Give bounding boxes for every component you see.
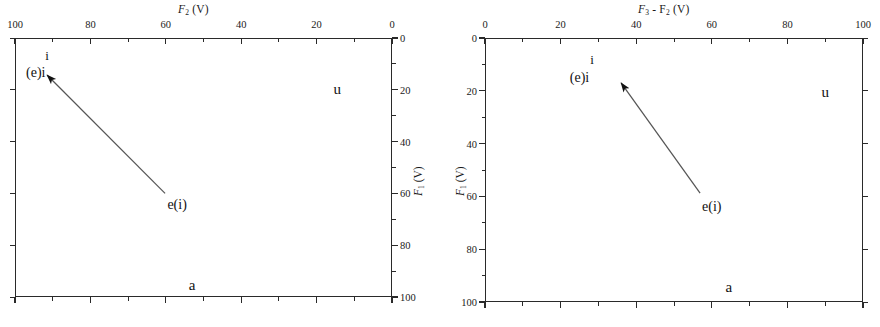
y-opposite-tick: [10, 193, 15, 194]
y-tick-major: [392, 37, 398, 38]
x-tick-minor: [203, 38, 204, 42]
bottom-tick-major: [862, 302, 863, 308]
plot-frame-right: [485, 38, 863, 302]
bottom-tick-major: [165, 297, 166, 303]
y-tick-label: 40: [400, 136, 411, 147]
y-opposite-tick: [10, 297, 15, 298]
x-tick-label: 80: [782, 19, 793, 30]
y-tick-label: 100: [400, 292, 416, 303]
y-opposite-tick: [10, 245, 15, 246]
x-tick-major: [484, 38, 485, 44]
y-tick-label: 0: [400, 33, 405, 44]
x-tick-minor: [522, 38, 523, 42]
bottom-tick-major: [787, 302, 788, 308]
x-tick-minor: [128, 38, 129, 42]
y-tick-major: [479, 90, 485, 91]
y-opposite-tick: [863, 38, 868, 39]
annotation-vowel-u: u: [334, 80, 342, 97]
y-tick-label: 100: [461, 297, 477, 308]
x-axis-title-right: F3 - F2 (V): [638, 3, 690, 17]
vowel-formant-figure: F2 (V) F1 (V) 100806040200 020406080100 …: [0, 0, 880, 327]
x-tick-minor: [278, 38, 279, 42]
y-axis-title-left: F1 (V): [412, 166, 426, 196]
y-tick-major: [392, 89, 398, 90]
x-tick-label: 20: [311, 19, 322, 30]
x-tick-major: [241, 38, 242, 44]
plot-frame-left: [15, 38, 392, 297]
bottom-tick-major: [636, 302, 637, 308]
y-tick-major: [479, 143, 485, 144]
x-tick-major: [316, 38, 317, 44]
x-tick-label: 0: [482, 19, 487, 30]
y-tick-minor: [482, 222, 486, 223]
y-tick-major: [392, 245, 398, 246]
bottom-tick-minor: [749, 302, 750, 306]
x-tick-minor: [52, 38, 53, 42]
y-tick-major: [392, 141, 398, 142]
bottom-tick-minor: [354, 297, 355, 301]
y-opposite-tick: [10, 141, 15, 142]
y-tick-label: 20: [400, 84, 411, 95]
bottom-tick-minor: [52, 297, 53, 301]
bottom-tick-major: [241, 297, 242, 303]
x-tick-major: [862, 38, 863, 44]
annotation-vowel-ei-lower: e(i): [167, 197, 186, 213]
annotation-vowel-ei: (e)i: [26, 65, 45, 81]
x-tick-minor: [354, 38, 355, 42]
bottom-tick-major: [711, 302, 712, 308]
y-opposite-tick: [863, 143, 868, 144]
y-opposite-tick: [10, 38, 15, 39]
bottom-tick-major: [560, 302, 561, 308]
bottom-tick-minor: [128, 297, 129, 301]
y-tick-label: 80: [467, 244, 478, 255]
annotation-vowel-a: a: [189, 277, 196, 294]
annotation-vowel-i-superscript: i: [45, 48, 49, 64]
x-tick-major: [636, 38, 637, 44]
y-tick-minor: [482, 275, 486, 276]
y-tick-label: 0: [472, 33, 477, 44]
y-tick-major: [392, 296, 398, 297]
x-tick-label: 100: [7, 19, 23, 30]
y-tick-minor: [392, 271, 396, 272]
bottom-tick-minor: [278, 297, 279, 301]
x-axis-title-left: F2 (V): [178, 3, 209, 17]
x-tick-minor: [674, 38, 675, 42]
y-tick-label: 60: [467, 191, 478, 202]
chart-panel-right: F3 - F2 (V) F1 (V) 020406080100 02040608…: [440, 0, 880, 327]
x-tick-label: 20: [555, 19, 566, 30]
y-tick-minor: [482, 117, 486, 118]
y-opposite-tick: [863, 249, 868, 250]
bottom-tick-minor: [598, 302, 599, 306]
y-tick-minor: [482, 64, 486, 65]
bottom-tick-minor: [674, 302, 675, 306]
annotation-vowel-a: a: [725, 279, 732, 296]
bottom-tick-major: [484, 302, 485, 308]
y-opposite-tick: [863, 90, 868, 91]
y-tick-label: 80: [400, 240, 411, 251]
x-tick-minor: [598, 38, 599, 42]
x-tick-label: 40: [236, 19, 247, 30]
bottom-tick-major: [14, 297, 15, 303]
y-tick-minor: [482, 170, 486, 171]
y-tick-major: [479, 37, 485, 38]
y-tick-minor: [392, 167, 396, 168]
y-opposite-tick: [863, 302, 868, 303]
x-tick-label: 60: [161, 19, 172, 30]
x-tick-major: [14, 38, 15, 44]
y-opposite-tick: [10, 89, 15, 90]
bottom-tick-major: [90, 297, 91, 303]
x-tick-label: 60: [707, 19, 718, 30]
y-opposite-tick: [863, 196, 868, 197]
x-tick-major: [711, 38, 712, 44]
x-tick-major: [165, 38, 166, 44]
x-tick-minor: [825, 38, 826, 42]
x-tick-major: [391, 38, 392, 44]
bottom-tick-major: [316, 297, 317, 303]
y-tick-minor: [392, 115, 396, 116]
y-tick-major: [479, 249, 485, 250]
bottom-tick-minor: [203, 297, 204, 301]
y-tick-label: 20: [467, 85, 478, 96]
annotation-vowel-u: u: [821, 84, 829, 101]
x-tick-major: [560, 38, 561, 44]
y-tick-major: [392, 193, 398, 194]
